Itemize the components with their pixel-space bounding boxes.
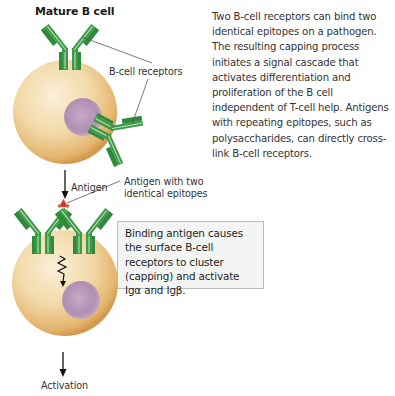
activation-label: Activation	[41, 380, 88, 392]
antigen-epitopes-label: Antigen with two identical epitopes	[124, 176, 208, 199]
nucleus-icon	[62, 281, 100, 319]
antigen-arrow-icon	[62, 170, 69, 199]
activation-arrow-icon	[60, 352, 67, 377]
bcr-label: B-cell receptors	[109, 66, 182, 78]
antigen-label: Antigen	[71, 182, 107, 194]
antigen-epitopes-line2: identical epitopes	[124, 188, 208, 200]
figure-description: Two B-cell receptors can bind two identi…	[212, 9, 395, 161]
figure-title: Mature B cell	[35, 5, 114, 18]
pointer-line	[82, 37, 152, 63]
bottom-b-cell	[12, 181, 120, 336]
antigen-epitopes-line1: Antigen with two	[124, 176, 208, 188]
top-b-cell	[13, 24, 152, 170]
capping-callout-box: Binding antigen causes the surface B-cel…	[117, 221, 264, 289]
antigen-icon	[58, 199, 70, 208]
